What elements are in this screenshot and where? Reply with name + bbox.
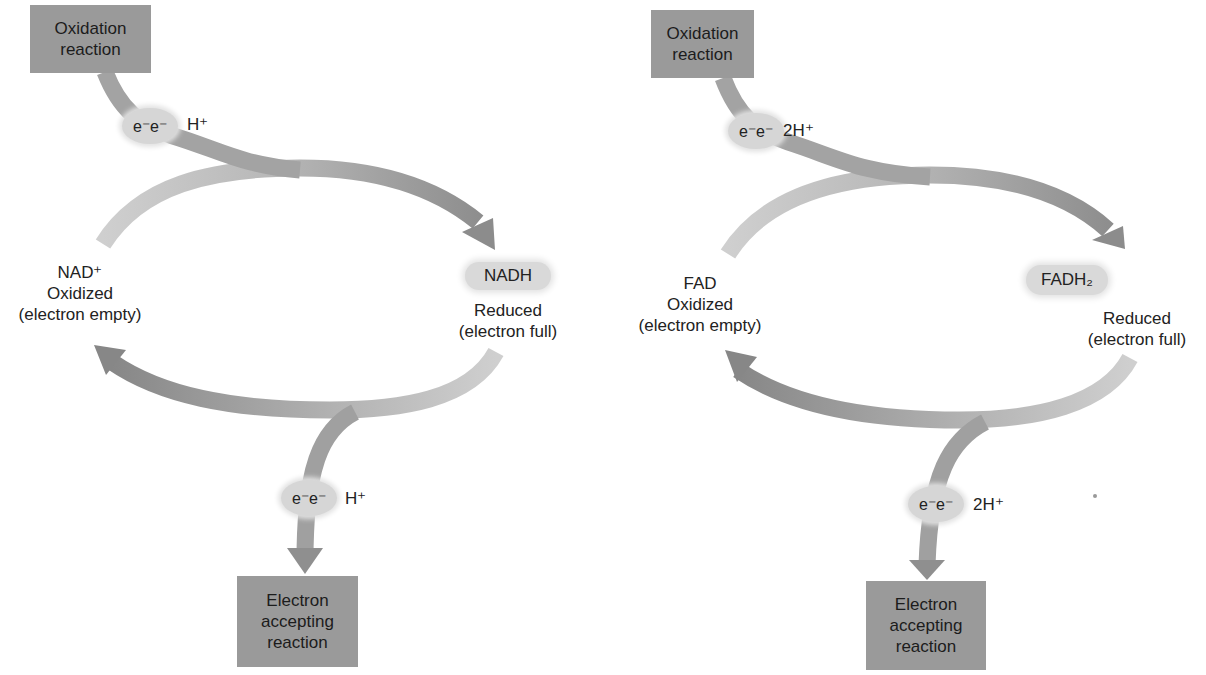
- box-line: reaction: [896, 636, 956, 657]
- fad-oxidized-label: FAD Oxidized (electron empty): [625, 273, 775, 336]
- box-line: accepting: [261, 611, 334, 632]
- proton-label: H⁺: [345, 488, 366, 509]
- electrons-label: e⁻e⁻: [133, 117, 167, 136]
- state-note: (electron empty): [5, 304, 155, 325]
- cycle-arrows: [0, 0, 1206, 675]
- electron-pair-bubble: e⁻e⁻: [281, 480, 337, 516]
- proton-label: 2H⁺: [973, 494, 1004, 515]
- state-label: Oxidized: [5, 283, 155, 304]
- electron-pair-bubble: e⁻e⁻: [122, 108, 178, 144]
- electrons-label: e⁻e⁻: [739, 122, 773, 141]
- box-line: reaction: [672, 44, 732, 65]
- electrons-label: e⁻e⁻: [919, 495, 953, 514]
- electron-accepting-reaction-box: Electron accepting reaction: [866, 581, 986, 670]
- coenzyme-name: NADH: [484, 266, 532, 286]
- box-line: Electron: [266, 590, 328, 611]
- nadh-reduced-label: Reduced (electron full): [433, 300, 583, 342]
- state-note: (electron full): [1062, 329, 1206, 350]
- fadh2-pill: FADH₂: [1026, 265, 1108, 295]
- coenzyme-name: FAD: [625, 273, 775, 294]
- oxidation-reaction-box: Oxidation reaction: [30, 5, 151, 73]
- state-note: (electron empty): [625, 315, 775, 336]
- box-line: reaction: [60, 39, 120, 60]
- box-line: reaction: [267, 632, 327, 653]
- nadh-pill: NADH: [465, 262, 551, 290]
- state-note: (electron full): [433, 321, 583, 342]
- electrons-label: e⁻e⁻: [292, 489, 326, 508]
- nad-oxidized-label: NAD⁺ Oxidized (electron empty): [5, 262, 155, 325]
- state-label: Reduced: [1062, 308, 1206, 329]
- state-label: Oxidized: [625, 294, 775, 315]
- electron-pair-bubble: e⁻e⁻: [728, 113, 784, 149]
- proton-label: 2H⁺: [783, 120, 814, 141]
- electron-accepting-reaction-box: Electron accepting reaction: [237, 576, 358, 667]
- oxidation-reaction-box: Oxidation reaction: [651, 10, 754, 78]
- state-label: Reduced: [433, 300, 583, 321]
- box-line: Oxidation: [667, 23, 739, 44]
- fadh2-reduced-label: Reduced (electron full): [1062, 308, 1206, 350]
- coenzyme-name: FADH₂: [1041, 270, 1093, 290]
- speck: [1093, 494, 1097, 498]
- coenzyme-name: NAD⁺: [5, 262, 155, 283]
- electron-pair-bubble: e⁻e⁻: [908, 486, 964, 522]
- box-line: Electron: [895, 594, 957, 615]
- box-line: Oxidation: [55, 18, 127, 39]
- proton-label: H⁺: [187, 114, 208, 135]
- box-line: accepting: [890, 615, 963, 636]
